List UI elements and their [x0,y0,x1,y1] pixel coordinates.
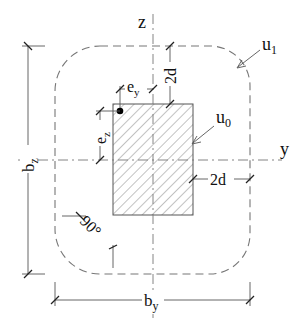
top-2d-label: 2d [162,68,179,84]
y-axis-label: y [280,139,289,159]
u0-label: u0 [216,107,231,130]
u1-label: u1 [262,34,277,57]
u1-leader [237,50,260,68]
z-axis-label: z [138,12,146,32]
control-perimeter-diagram: bz by 2d 2d ey [0,0,304,330]
u0-leader [192,126,214,144]
right-2d-label: 2d [210,171,226,188]
